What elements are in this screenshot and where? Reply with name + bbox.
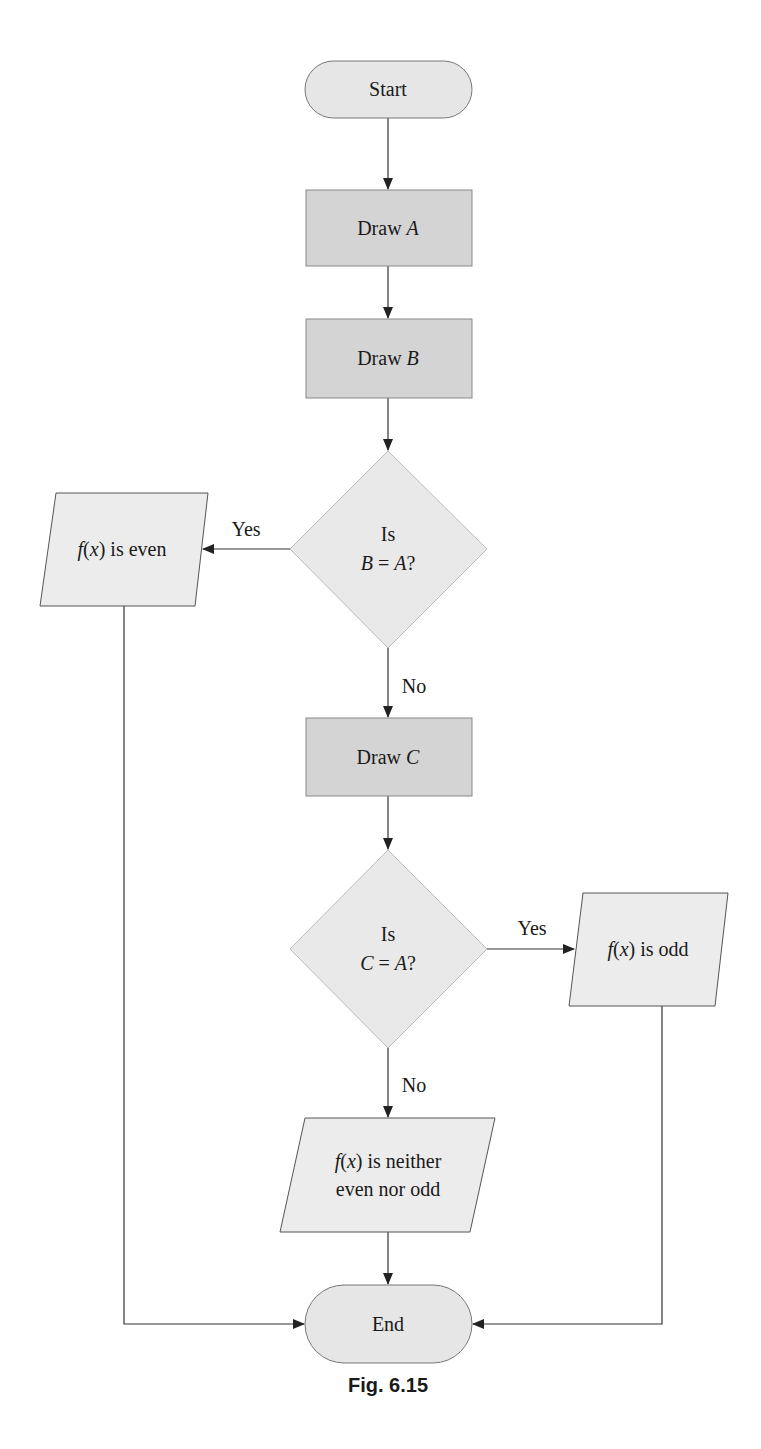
flowchart: Start Draw A Draw B Is B = A? Yes No f(x…: [0, 0, 761, 1449]
even-label: f(x) is even: [78, 538, 167, 561]
draw-b-process: Draw B: [306, 319, 472, 398]
draw-c-process: Draw C: [306, 718, 472, 796]
figure-caption: Fig. 6.15: [0, 1374, 761, 1397]
decision-b-line1: Is: [381, 523, 396, 545]
output-even: f(x) is even: [40, 493, 208, 606]
decision-c-line1: Is: [381, 923, 396, 945]
end-terminal: End: [305, 1285, 472, 1363]
decision-b-equals-a: Is B = A?: [290, 451, 487, 648]
edge-label-b-yes: Yes: [231, 518, 260, 540]
edge-label-b-no: No: [402, 675, 426, 697]
end-label: End: [372, 1313, 404, 1335]
start-terminal: Start: [305, 61, 472, 118]
edge-odd-to-end: [473, 1006, 662, 1324]
draw-c-label: Draw C: [357, 746, 420, 768]
draw-b-label: Draw B: [357, 347, 419, 369]
decision-b-line2: B = A?: [361, 552, 416, 574]
start-label: Start: [369, 78, 407, 100]
odd-label: f(x) is odd: [607, 938, 688, 961]
edge-label-c-no: No: [402, 1074, 426, 1096]
edge-label-c-yes: Yes: [517, 917, 546, 939]
neither-label-line2: even nor odd: [336, 1178, 440, 1200]
decision-c-equals-a: Is C = A?: [290, 850, 487, 1048]
draw-a-label: Draw A: [357, 217, 419, 239]
output-odd: f(x) is odd: [569, 893, 728, 1006]
neither-label-line1: f(x) is neither: [335, 1150, 442, 1173]
output-neither: f(x) is neither even nor odd: [280, 1118, 495, 1232]
edge-even-to-end: [124, 606, 304, 1324]
decision-c-line2: C = A?: [360, 952, 416, 974]
draw-a-process: Draw A: [306, 190, 472, 266]
